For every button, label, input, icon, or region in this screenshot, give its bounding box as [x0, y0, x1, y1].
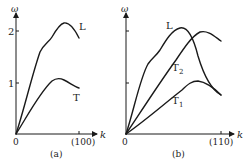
origin-label: 0	[13, 137, 19, 147]
curve-label-T: T	[73, 92, 80, 103]
phonon-dispersion-diagram: ω k 0 2 1 (100) L T (a) ω k 0 (110) L T …	[0, 0, 250, 167]
curve-label-T2: T 2	[172, 62, 183, 76]
curve-L	[126, 28, 221, 134]
curve-label-L: L	[79, 21, 86, 32]
y-tick-label-1: 1	[8, 78, 14, 89]
curve-T1	[126, 81, 221, 134]
x-axis-label: k	[237, 129, 243, 140]
y-tick-label-2: 2	[8, 26, 14, 37]
y-axis-label: ω	[11, 4, 19, 14]
svg-text:1: 1	[179, 101, 183, 109]
curve-label-L: L	[166, 20, 173, 31]
x-axis-label: k	[100, 129, 106, 140]
origin-label: 0	[122, 137, 128, 147]
caption-b: (b)	[172, 149, 185, 159]
svg-text:T: T	[172, 95, 179, 106]
x-tick-label: (100)	[71, 137, 95, 147]
svg-text:T: T	[172, 62, 179, 73]
panel-a: ω k 0 2 1 (100) L T (a)	[8, 4, 106, 159]
curve-T	[16, 79, 79, 134]
panel-b: ω k 0 (110) L T 2 T 1 (b)	[121, 4, 243, 159]
caption-a: (a)	[50, 149, 62, 159]
x-tick-label: (110)	[209, 137, 233, 147]
svg-text:2: 2	[179, 68, 183, 76]
y-axis-label: ω	[121, 4, 129, 14]
curve-label-T1: T 1	[172, 95, 183, 109]
